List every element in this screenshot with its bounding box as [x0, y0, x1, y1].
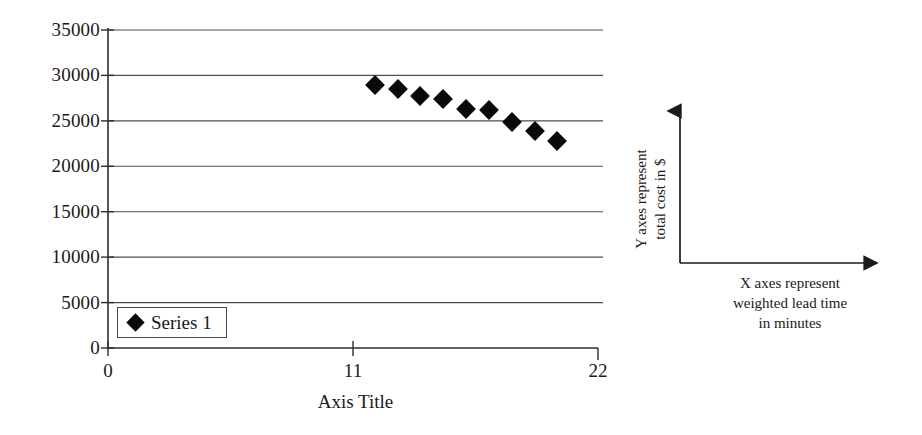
x-axis-note: X axes represent weighted lead time in m… — [680, 273, 900, 333]
data-point — [502, 112, 522, 132]
legend[interactable]: Series 1 — [117, 307, 227, 338]
data-point — [365, 75, 385, 95]
y-axis-note: Y axes represent total cost in $ — [632, 119, 670, 279]
data-markers — [365, 75, 567, 151]
legend-series-label: Series 1 — [151, 313, 212, 332]
diamond-marker-icon — [126, 313, 144, 331]
y-tick-label: 30000 — [16, 65, 100, 84]
x-axis-title: Axis Title — [108, 391, 603, 413]
y-tick-label: 25000 — [16, 111, 100, 130]
y-tick-label: 15000 — [16, 202, 100, 221]
y-axis-note-line-2: total cost in $ — [651, 119, 670, 279]
x-axis-note-line-3: in minutes — [680, 313, 900, 333]
gridlines — [108, 30, 603, 303]
y-tick-label: 5000 — [16, 293, 100, 312]
data-point — [456, 99, 476, 119]
x-axis-note-line-2: weighted lead time — [680, 293, 900, 313]
data-point — [479, 100, 499, 120]
data-point — [547, 131, 567, 151]
y-tick-label: 10000 — [16, 247, 100, 266]
y-tick-label: 20000 — [16, 156, 100, 175]
x-tick-label-22: 22 — [589, 361, 608, 380]
data-point — [410, 86, 430, 106]
scatter-chart: 35000 30000 25000 20000 15000 10000 5000… — [0, 0, 620, 435]
axis-explanation-diagram: Y axes represent total cost in $ X axes … — [618, 80, 922, 370]
figure: 35000 30000 25000 20000 15000 10000 5000… — [0, 0, 922, 435]
x-tick-label-0: 0 — [103, 361, 113, 380]
x-tick-label-11: 11 — [344, 361, 362, 380]
y-tick-label: 35000 — [16, 20, 100, 39]
x-axis-ticks — [108, 341, 598, 360]
y-axis-note-line-1: Y axes represent — [632, 119, 651, 279]
data-point — [433, 89, 453, 109]
data-point — [525, 121, 545, 141]
data-point — [388, 79, 408, 99]
x-axis-note-line-1: X axes represent — [680, 273, 900, 293]
y-tick-label: 0 — [16, 338, 100, 357]
